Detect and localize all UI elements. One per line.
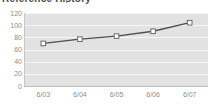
x-axis-tick-label: 6/03 <box>26 91 60 99</box>
x-axis-line <box>24 86 208 87</box>
y-axis-tick-label: 0 <box>0 83 22 90</box>
data-point-marker[interactable] <box>41 41 46 46</box>
y-axis-tick-label: 20 <box>0 70 22 77</box>
y-axis-tick-labels: 020406080100120 <box>0 0 22 105</box>
chart-title-strip: Reference History <box>0 0 212 5</box>
y-axis-tick-label: 100 <box>0 22 22 29</box>
x-axis-tick-label: 6/06 <box>136 91 170 99</box>
y-axis-tick-label: 80 <box>0 34 22 41</box>
line-series <box>25 13 208 86</box>
x-axis-tick-label: 6/04 <box>63 91 97 99</box>
y-axis-tick-label: 60 <box>0 46 22 53</box>
data-point-marker[interactable] <box>151 29 156 34</box>
y-axis-tick-label: 40 <box>0 58 22 65</box>
data-point-marker[interactable] <box>187 20 192 25</box>
series-markers <box>41 20 192 45</box>
x-axis-tick-label: 6/05 <box>100 91 134 99</box>
data-point-marker[interactable] <box>114 34 119 39</box>
text-caret <box>66 0 67 3</box>
plot-area <box>25 13 208 86</box>
y-axis-tick-label: 120 <box>0 10 22 17</box>
series-line <box>43 23 189 44</box>
x-axis-tick-label: 6/07 <box>173 91 207 99</box>
chart-widget: Reference History 020406080100120 6/036/… <box>0 0 212 105</box>
x-axis-tick-labels: 6/036/046/056/066/07 <box>25 91 208 103</box>
data-point-marker[interactable] <box>78 37 83 42</box>
